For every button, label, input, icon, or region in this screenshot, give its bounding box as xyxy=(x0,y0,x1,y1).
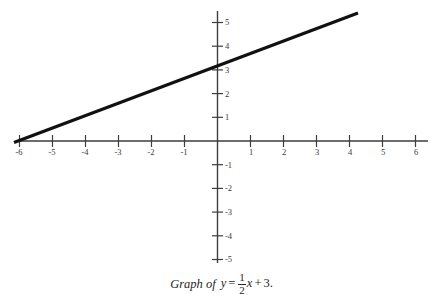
y-tick-label: 5 xyxy=(225,18,229,27)
y-tick-label: -2 xyxy=(225,184,232,193)
caption-variable-y: y xyxy=(221,276,227,290)
y-tick-label: 2 xyxy=(225,90,229,99)
y-tick-label: -5 xyxy=(225,255,232,264)
x-tick-label: -2 xyxy=(147,148,154,157)
x-tick-label: 5 xyxy=(381,148,385,157)
caption-plus-sign: + xyxy=(254,276,261,290)
y-tick-label: 3 xyxy=(225,66,229,75)
x-tick-label: 4 xyxy=(348,148,352,157)
caption-variable-x: x xyxy=(247,276,253,290)
fraction-numerator: 1 xyxy=(238,272,246,284)
y-tick-label: -3 xyxy=(225,208,232,217)
caption-equals-sign: = xyxy=(228,276,235,290)
x-tick-label: 6 xyxy=(414,148,418,157)
caption-prefix: Graph of xyxy=(170,278,216,292)
fraction-denominator: 2 xyxy=(238,285,246,297)
caption-equation: y=12x+3. xyxy=(221,272,273,297)
y-tick-label: 4 xyxy=(225,42,229,51)
figure-caption: Graph ofy=12x+3. xyxy=(0,272,443,297)
x-tick-label: -3 xyxy=(114,148,121,157)
x-tick-label: -5 xyxy=(48,148,55,157)
x-tick-label: 1 xyxy=(249,148,253,157)
x-tick-label: -1 xyxy=(180,148,187,157)
graph-figure: -6 -5 -4 -3 -2 -1 1 2 3 4 5 6 5 4 3 2 1 … xyxy=(0,0,443,307)
caption-period: . xyxy=(270,276,273,290)
y-tick-label: -4 xyxy=(225,232,232,241)
x-tick-label: -4 xyxy=(81,148,88,157)
line-series xyxy=(14,13,358,143)
x-tick-label: 3 xyxy=(315,148,319,157)
y-tick-label: -1 xyxy=(225,161,232,170)
caption-fraction-one-half: 12 xyxy=(238,272,246,297)
coordinate-plane xyxy=(0,0,443,307)
x-tick-label: 2 xyxy=(282,148,286,157)
x-tick-label: -6 xyxy=(15,148,22,157)
y-tick-label: 1 xyxy=(225,113,229,122)
